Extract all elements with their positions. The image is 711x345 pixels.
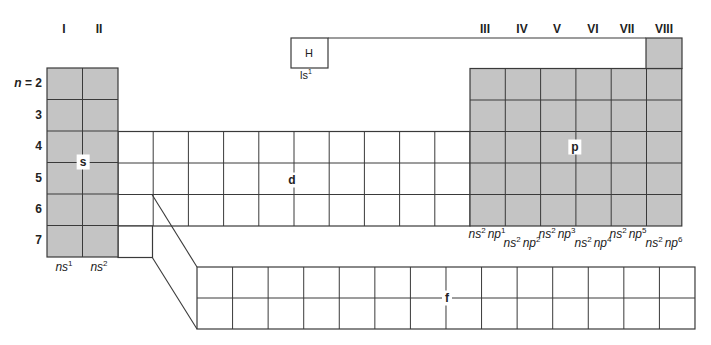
group-label-iv: IV [516,22,527,36]
config-sup: 1 [501,226,505,235]
config-base: np [488,227,501,241]
p-config-3: ns2np3 [539,226,576,241]
config-base: ns [504,236,517,250]
group-label-vii: VII [620,22,635,36]
config-base: ns [646,236,659,250]
period-label-7: 7 [2,233,42,247]
group-label-v: V [553,22,561,36]
config-base: np [594,236,607,250]
periodic-table-grid [0,0,711,345]
config-base: np [523,236,536,250]
helium-cell [646,38,682,69]
period-value: = 2 [25,76,42,90]
config-base: ns [575,236,588,250]
config-base: np [629,227,642,241]
d-block-label: d [285,173,298,188]
s-config-1: ns1 [55,259,72,274]
config-sup: 2 [103,259,107,268]
config-base: ns [55,260,68,274]
config-sup: 5 [642,226,646,235]
config-base: ns [610,227,623,241]
p-config-6: ns2np6 [646,235,683,250]
period-label-2: n = 2 [2,76,42,90]
config-sup: 2 [658,235,662,244]
s-config-2: ns2 [90,259,107,274]
s-block-label: s [77,155,90,170]
config-base: np [558,227,571,241]
period-label-6: 6 [2,202,42,216]
f-connector-bottom [152,257,197,329]
hydrogen-symbol: H [305,47,313,59]
hydrogen-config-sup: 1 [308,68,312,75]
group-label-vi: VI [587,22,598,36]
config-sup: 2 [551,226,555,235]
config-sup: 2 [516,235,520,244]
period-label-4: 4 [2,139,42,153]
config-base: ns [469,227,482,241]
group-label-i: I [62,22,65,36]
p-config-1: ns2np1 [469,226,506,241]
period-label-5: 5 [2,171,42,185]
period-n-symbol: n [14,76,25,90]
config-sup: 3 [571,226,575,235]
p-config-5: ns2np5 [610,226,647,241]
config-sup: 2 [622,226,626,235]
f-block-label: f [442,291,452,306]
p-block-label: p [568,140,581,155]
config-sup: 6 [678,235,682,244]
group-label-viii: VIII [655,22,673,36]
config-base: ns [539,227,552,241]
p-config-4: ns2np4 [575,235,612,250]
p-config-2: ns2np2 [504,235,541,250]
config-sup: 2 [587,235,591,244]
hydrogen-config: ls1 [300,68,312,81]
config-base: np [665,236,678,250]
group-label-ii: II [96,22,103,36]
d-block-period7-cell [118,226,153,258]
config-base: ns [90,260,103,274]
hydrogen-config-base: ls [300,69,308,81]
group-label-iii: III [480,22,490,36]
config-sup: 1 [68,259,72,268]
period-label-3: 3 [2,108,42,122]
config-sup: 2 [481,226,485,235]
